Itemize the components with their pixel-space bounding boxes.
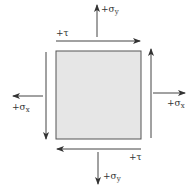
label-tau-bottom: +τ [129,152,142,162]
label-sigma-y-bottom: +σy [103,171,121,183]
label-sigma-x-right: +σx [167,98,185,110]
label-sigma-y-top: +σy [101,4,119,16]
diagram-svg: +τ +τ +σy +σy +σx +σx [0,0,196,196]
label-tau-top: +τ [56,28,69,38]
stress-element [56,51,141,139]
label-sigma-x-left: +σx [12,102,30,114]
stress-element-diagram: +τ +τ +σy +σy +σx +σx [0,0,196,196]
